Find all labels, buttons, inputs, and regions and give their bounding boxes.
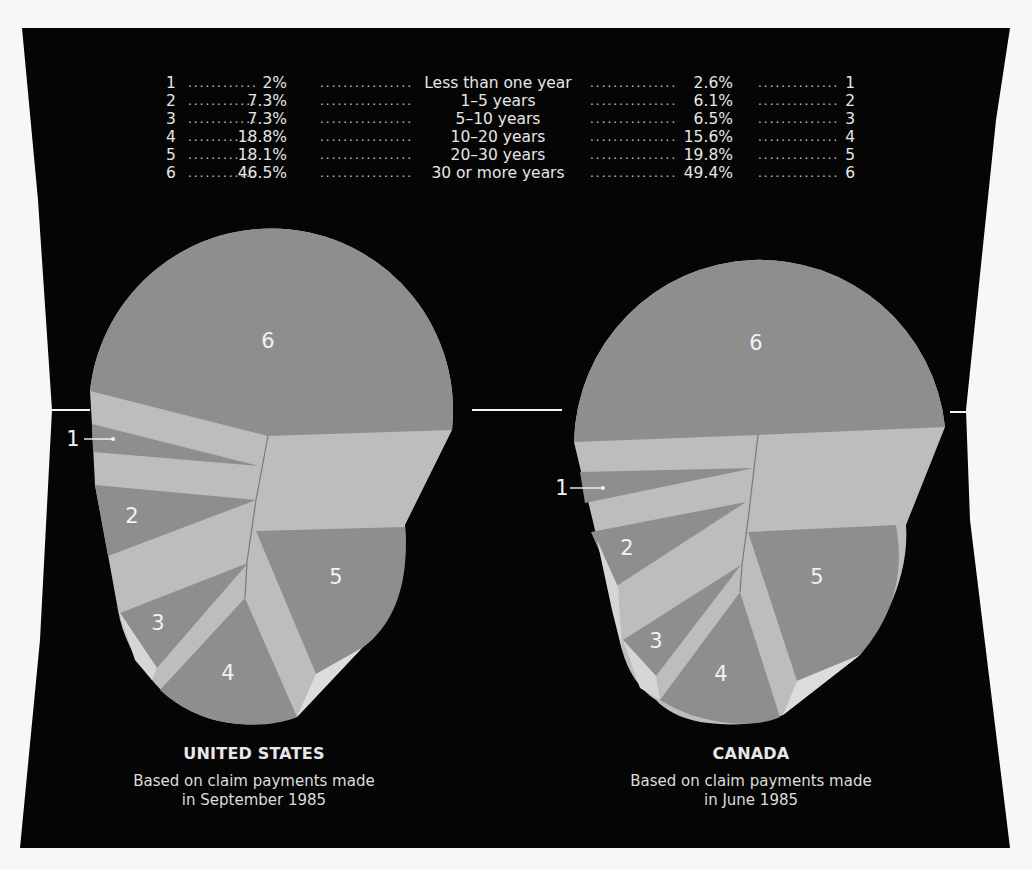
legend-number-left: 2 [166,92,176,110]
legend-us-value: 46.5% [238,164,287,182]
legend-leader-dots: ................ [590,164,678,182]
us-slice-label-2: 2 [125,504,138,528]
legend-number-right: 3 [845,110,855,128]
legend-category-label: 5–10 years [418,110,578,128]
legend-leader-dots: ................ [590,128,678,146]
legend-number-right: 6 [845,164,855,182]
ca-slice-label-6: 6 [749,331,762,355]
us-caption-line-1: Based on claim payments made [84,772,424,791]
us-slice-label-3: 3 [151,611,164,635]
us-slice-label-5: 5 [329,565,342,589]
legend-canada-value: 15.6% [684,128,733,146]
legend-row: 3 ................ 7.3% ................… [160,110,860,128]
us-slice-label-4: 4 [221,661,234,685]
legend-leader-dots: ................ [758,74,838,92]
legend-leader-dots: ................ [758,128,838,146]
legend-leader-dots: ................ [590,146,678,164]
legend-us-value: 7.3% [248,92,287,110]
canada-caption-line-2: in June 1985 [581,791,921,810]
legend-leader-dots: ................ [758,92,838,110]
canada-caption: CANADA Based on claim payments made in J… [581,744,921,810]
legend-leader-dots: ................ [590,92,678,110]
canada-country-title: CANADA [581,744,921,763]
legend-category-label: Less than one year [418,74,578,92]
ca-leader-dot-1 [601,486,605,490]
legend-leader-dots: ................ [758,110,838,128]
us-slice-label-6: 6 [261,329,274,353]
legend-category-label: 30 or more years [418,164,578,182]
us-slice-label-1: 1 [66,427,79,451]
us-caption-line-2: in September 1985 [84,791,424,810]
legend-us-value: 18.8% [238,128,287,146]
legend-row: 2 ................ 7.3% ................… [160,92,860,110]
legend-canada-value: 6.5% [694,110,733,128]
legend-leader-dots: ................ [320,146,415,164]
legend-number-right: 1 [845,74,855,92]
legend-number-left: 3 [166,110,176,128]
legend-category-label: 10–20 years [418,128,578,146]
legend-number-right: 2 [845,92,855,110]
us-country-title: UNITED STATES [84,744,424,763]
legend-leader-dots: ................ [758,146,838,164]
legend-number-right: 5 [845,146,855,164]
legend-canada-value: 49.4% [684,164,733,182]
ca-slice-label-3: 3 [649,629,662,653]
legend-row: 5 ................ 18.1% ...............… [160,146,860,164]
legend-number-left: 1 [166,74,176,92]
legend-category-label: 1–5 years [418,92,578,110]
legend-leader-dots: ................ [320,128,415,146]
legend-category-label: 20–30 years [418,146,578,164]
legend-row: 1 ................ 2% ................ L… [160,74,860,92]
us-leader-dot-1 [111,437,115,441]
legend-number-right: 4 [845,128,855,146]
legend-number-left: 6 [166,164,176,182]
legend-row: 4 ................ 18.8% ...............… [160,128,860,146]
legend-us-value: 18.1% [238,146,287,164]
us-caption: UNITED STATES Based on claim payments ma… [84,744,424,810]
ca-slice-label-4: 4 [714,662,727,686]
legend-leader-dots: ................ [188,74,258,92]
legend-leader-dots: ................ [320,92,415,110]
legend-leader-dots: ................ [590,110,678,128]
legend-leader-dots: ................ [320,110,415,128]
legend-table: 1 ................ 2% ................ L… [160,74,860,182]
legend-row: 6 ................ 46.5% ...............… [160,164,860,182]
ca-slice-label-5: 5 [810,565,823,589]
ca-slice-label-2: 2 [620,536,633,560]
legend-canada-value: 2.6% [694,74,733,92]
legend-number-left: 4 [166,128,176,146]
legend-us-value: 7.3% [248,110,287,128]
canada-caption-line-1: Based on claim payments made [581,772,921,791]
legend-canada-value: 6.1% [694,92,733,110]
legend-leader-dots: ................ [320,164,415,182]
legend-leader-dots: ................ [758,164,838,182]
legend-number-left: 5 [166,146,176,164]
legend-leader-dots: ................ [320,74,415,92]
legend-leader-dots: ................ [590,74,678,92]
ca-slice-label-1: 1 [555,476,568,500]
legend-us-value: 2% [262,74,287,92]
legend-canada-value: 19.8% [684,146,733,164]
